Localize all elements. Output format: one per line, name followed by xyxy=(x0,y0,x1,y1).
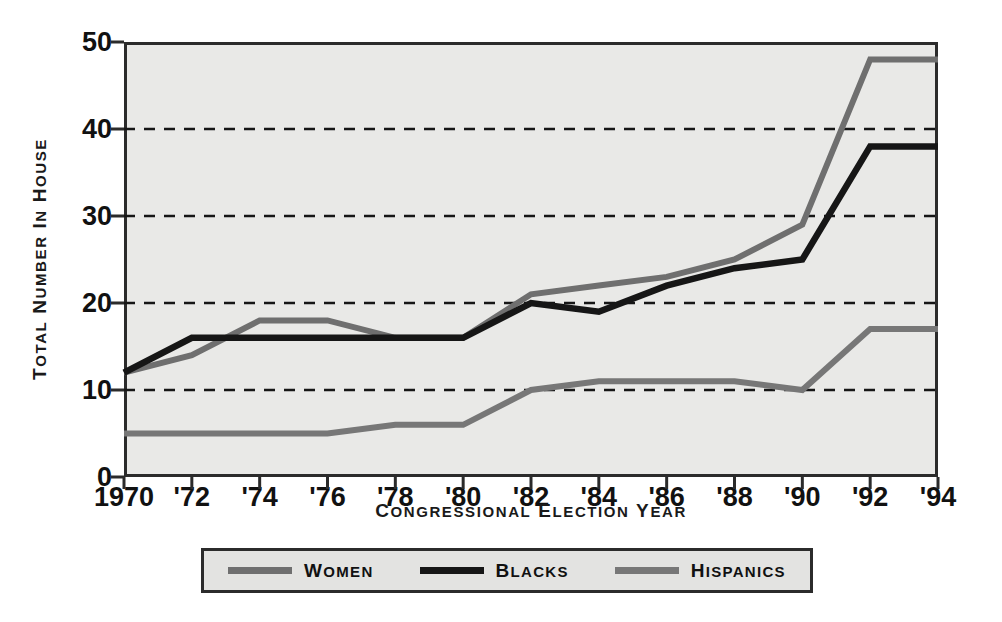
y-tick-label-20: 20 xyxy=(50,290,112,317)
y-axis-title: TOTAL NUMBER IN HOUSE xyxy=(29,79,51,439)
x-axis-title: CONGRESSIONAL ELECTION YEAR xyxy=(124,500,938,522)
legend-swatch-women xyxy=(228,567,292,574)
legend-label-women: WOMEN xyxy=(304,560,373,582)
legend-swatch-hispanics xyxy=(615,567,679,574)
y-tick-label-50: 50 xyxy=(50,29,112,56)
legend-label-blacks: BLACKS xyxy=(496,560,569,582)
x-axis-title-text: CONGRESSIONAL ELECTION YEAR xyxy=(375,500,687,521)
legend-swatch-blacks xyxy=(420,567,484,574)
y-axis-title-text: TOTAL NUMBER IN HOUSE xyxy=(29,138,50,380)
y-tick-label-30: 30 xyxy=(50,203,112,230)
legend-item-women: WOMEN xyxy=(228,560,373,582)
y-tick-label-40: 40 xyxy=(50,116,112,143)
legend-label-hispanics: HISPANICS xyxy=(691,560,786,582)
legend-item-blacks: BLACKS xyxy=(420,560,569,582)
legend-item-hispanics: HISPANICS xyxy=(615,560,786,582)
plot-area xyxy=(124,42,938,477)
chart-figure: TOTAL NUMBER IN HOUSE 50 40 30 20 10 0 1… xyxy=(0,0,1002,622)
chart-legend: WOMENBLACKSHISPANICS xyxy=(201,548,813,593)
y-tick-label-10: 10 xyxy=(50,377,112,404)
